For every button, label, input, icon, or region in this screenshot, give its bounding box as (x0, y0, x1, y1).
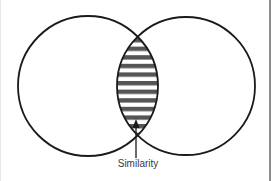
venn-svg (0, 0, 271, 181)
venn-diagram: Similarity (0, 0, 271, 181)
similarity-label: Similarity (110, 158, 166, 169)
